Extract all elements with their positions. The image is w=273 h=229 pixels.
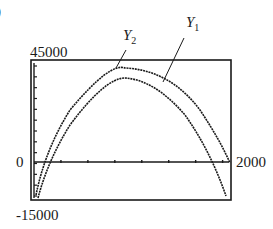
curve-y2 (36, 67, 230, 195)
panel-label-fragment: ) (0, 3, 1, 20)
chart-canvas: ) 45000 0 -15000 2000 Y2 Y1 (0, 0, 273, 229)
y-zero-label: 0 (16, 154, 24, 170)
y2-callout-line (116, 50, 126, 68)
y-min-label: -15000 (16, 207, 59, 223)
x-max-label: 2000 (236, 154, 266, 170)
legend-y1: Y1 (186, 14, 199, 33)
legend-y2: Y2 (123, 27, 136, 46)
curve-y1 (38, 78, 226, 198)
plot-frame (31, 60, 231, 200)
y-max-label: 45000 (30, 44, 68, 60)
